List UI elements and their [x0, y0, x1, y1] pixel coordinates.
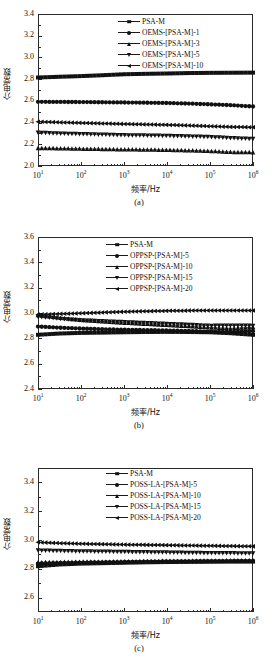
- legend-label: OPPSP-[PSA-M]-10: [130, 262, 193, 271]
- x-axis-label: 频率/Hz: [38, 406, 253, 417]
- legend-label: POSS-LA-[PSA-M]-5: [130, 480, 197, 489]
- subplot-caption: (a): [0, 197, 278, 207]
- legend-label: PSA-M: [142, 17, 165, 26]
- legend-item[interactable]: PSA-M: [106, 239, 193, 250]
- legend-label: OPPSP-[PSA-M]-5: [130, 251, 189, 260]
- legend-item[interactable]: POSS-LA-[PSA-M]-15: [106, 501, 201, 512]
- legend-marker-circle-icon: [106, 479, 128, 490]
- legend-marker-triangle-up-icon: [106, 261, 128, 272]
- legend-label: PSA-M: [130, 469, 153, 478]
- legend-item[interactable]: OPPSP-[PSA-M]-10: [106, 261, 193, 272]
- legend-marker-circle-icon: [106, 250, 128, 261]
- chart-panel-a: 2.02.22.42.62.83.03.23.41011021031041051…: [0, 0, 278, 223]
- legend-marker-square-icon: [106, 468, 128, 479]
- subplot-caption: (b): [0, 420, 278, 430]
- legend-marker-circle-icon: [118, 27, 140, 38]
- legend-marker-triangle-down-icon: [106, 501, 128, 512]
- legend-marker-triangle-up-icon: [106, 490, 128, 501]
- legend-item[interactable]: OPPSP-[PSA-M]-20: [106, 283, 193, 294]
- legend-marker-triangle-left-icon: [118, 60, 140, 71]
- legend-marker-square-icon: [106, 239, 128, 250]
- x-axis-label: 频率/Hz: [38, 629, 253, 640]
- y-axis-label: 介电常数: [2, 68, 13, 100]
- chart-legend: PSA-MOEMS-[PSA-M]-1OEMS-[PSA-M]-3OEMS-[P…: [118, 16, 203, 71]
- legend-label: OEMS-[PSA-M]-3: [142, 39, 200, 48]
- legend-label: OEMS-[PSA-M]-5: [142, 50, 200, 59]
- legend-marker-triangle-left-icon: [106, 283, 128, 294]
- legend-item[interactable]: OEMS-[PSA-M]-10: [118, 60, 203, 71]
- chart-panel-b: 2.42.62.83.03.23.43.6101102103104105106P…: [0, 223, 278, 446]
- legend-item[interactable]: OEMS-[PSA-M]-3: [118, 38, 203, 49]
- legend-marker-triangle-down-icon: [118, 49, 140, 60]
- legend-label: OPPSP-[PSA-M]-20: [130, 284, 193, 293]
- subplot-caption: (c): [0, 643, 278, 653]
- legend-label: OEMS-[PSA-M]-10: [142, 61, 203, 70]
- legend-label: OPPSP-[PSA-M]-15: [130, 273, 193, 282]
- figure-sheet: 2.02.22.42.62.83.03.23.41011021031041051…: [0, 0, 278, 670]
- legend-item[interactable]: PSA-M: [118, 16, 203, 27]
- legend-item[interactable]: OEMS-[PSA-M]-1: [118, 27, 203, 38]
- legend-label: POSS-LA-[PSA-M]-20: [130, 513, 201, 522]
- legend-marker-square-icon: [118, 16, 140, 27]
- chart-panel-c: 2.62.83.03.23.4101102103104105106PSA-MPO…: [0, 446, 278, 669]
- legend-label: PSA-M: [130, 240, 153, 249]
- legend-item[interactable]: OPPSP-[PSA-M]-15: [106, 272, 193, 283]
- legend-marker-triangle-up-icon: [118, 38, 140, 49]
- legend-marker-triangle-down-icon: [106, 272, 128, 283]
- y-axis-label: 介电常数: [2, 291, 13, 323]
- chart-legend: PSA-MPOSS-LA-[PSA-M]-5POSS-LA-[PSA-M]-10…: [106, 468, 201, 523]
- x-axis-label: 频率/Hz: [38, 183, 253, 194]
- y-axis-label: 介电常数: [2, 518, 13, 550]
- legend-item[interactable]: OEMS-[PSA-M]-5: [118, 49, 203, 60]
- legend-label: OEMS-[PSA-M]-1: [142, 28, 200, 37]
- legend-label: POSS-LA-[PSA-M]-15: [130, 502, 201, 511]
- legend-item[interactable]: POSS-LA-[PSA-M]-5: [106, 479, 201, 490]
- legend-item[interactable]: POSS-LA-[PSA-M]-10: [106, 490, 201, 501]
- chart-legend: PSA-MOPPSP-[PSA-M]-5OPPSP-[PSA-M]-10OPPS…: [106, 239, 193, 294]
- legend-item[interactable]: POSS-LA-[PSA-M]-20: [106, 512, 201, 523]
- legend-item[interactable]: PSA-M: [106, 468, 201, 479]
- legend-item[interactable]: OPPSP-[PSA-M]-5: [106, 250, 193, 261]
- legend-label: POSS-LA-[PSA-M]-10: [130, 491, 201, 500]
- legend-marker-triangle-left-icon: [106, 512, 128, 523]
